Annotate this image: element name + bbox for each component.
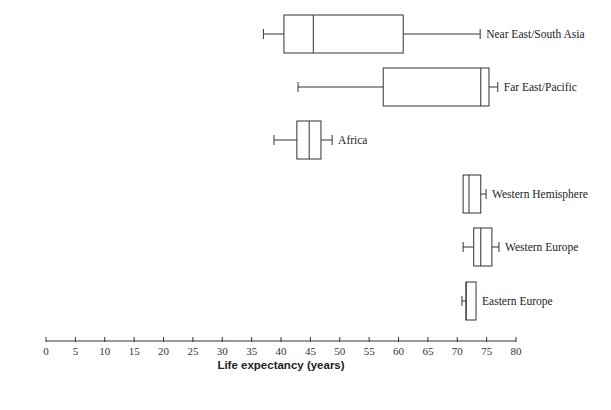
tick-label: 5 xyxy=(73,345,79,357)
boxplot-chart: Near East/South AsiaFar East/PacificAfri… xyxy=(0,0,611,410)
category-label: Far East/Pacific xyxy=(504,81,577,93)
iqr-box xyxy=(466,282,476,320)
tick-label: 60 xyxy=(393,345,405,357)
x-axis-label: Life expectancy (years) xyxy=(217,359,344,371)
tick-label: 75 xyxy=(481,345,493,357)
category-label: Near East/South Asia xyxy=(486,28,584,40)
tick-label: 40 xyxy=(276,345,288,357)
iqr-box xyxy=(284,15,403,53)
category-label: Western Hemisphere xyxy=(492,188,588,201)
box-western-europe: Western Europe xyxy=(463,228,578,266)
iqr-box xyxy=(474,228,492,266)
tick-label: 20 xyxy=(158,345,170,357)
tick-label: 25 xyxy=(187,345,199,357)
box-eastern-europe: Eastern Europe xyxy=(462,282,553,320)
tick-label: 45 xyxy=(305,345,317,357)
iqr-box xyxy=(383,68,489,106)
x-axis: 05101520253035404550556065707580 xyxy=(43,337,522,357)
box-near-east-south-asia: Near East/South Asia xyxy=(263,15,584,53)
category-label: Eastern Europe xyxy=(482,295,553,308)
tick-label: 70 xyxy=(452,345,464,357)
category-label: Western Europe xyxy=(505,241,578,254)
box-africa: Africa xyxy=(274,121,368,159)
tick-label: 15 xyxy=(129,345,141,357)
tick-label: 50 xyxy=(334,345,346,357)
iqr-box xyxy=(463,175,481,213)
tick-label: 0 xyxy=(43,345,49,357)
tick-label: 30 xyxy=(217,345,229,357)
box-western-hemisphere: Western Hemisphere xyxy=(463,175,588,213)
tick-label: 65 xyxy=(422,345,434,357)
boxes-group: Near East/South AsiaFar East/PacificAfri… xyxy=(263,15,588,320)
tick-label: 80 xyxy=(511,345,523,357)
tick-label: 35 xyxy=(246,345,258,357)
tick-label: 10 xyxy=(99,345,111,357)
category-label: Africa xyxy=(338,134,367,146)
tick-label: 55 xyxy=(364,345,376,357)
box-far-east-pacific: Far East/Pacific xyxy=(298,68,577,106)
